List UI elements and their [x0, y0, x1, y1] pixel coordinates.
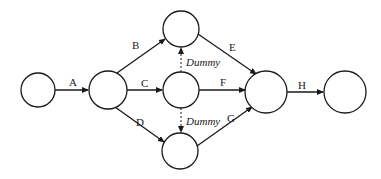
arrow-b — [117, 39, 165, 73]
label-e: E — [229, 41, 236, 53]
label-h: H — [298, 79, 306, 91]
node-1 — [21, 73, 55, 107]
network-diagram: A B C D E F G H Dummy Dummy — [0, 0, 381, 179]
arrow-e — [198, 34, 256, 74]
label-g: G — [227, 112, 235, 124]
label-b: B — [132, 39, 139, 51]
node-2 — [89, 71, 127, 109]
node-5 — [162, 133, 198, 169]
label-a: A — [69, 76, 77, 88]
node-3 — [163, 11, 199, 47]
label-dummy-down: Dummy — [185, 115, 220, 127]
label-f: F — [220, 76, 226, 88]
node-7 — [324, 71, 366, 113]
label-d: D — [136, 116, 144, 128]
label-dummy-up: Dummy — [185, 56, 220, 68]
label-c: C — [141, 77, 148, 89]
node-4 — [163, 72, 199, 108]
node-6 — [245, 71, 287, 113]
